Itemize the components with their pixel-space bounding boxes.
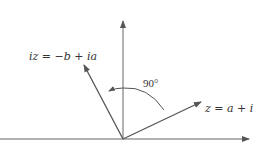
rotation-arc xyxy=(109,88,164,110)
label-angle: 90° xyxy=(143,77,158,89)
label-iz: iz = −b + ia xyxy=(29,50,97,63)
complex-plane-diagram: iz = −b + ia z = a + ib 90° xyxy=(0,0,253,152)
vector-iz xyxy=(84,65,123,139)
label-z: z = a + ib xyxy=(204,102,253,115)
